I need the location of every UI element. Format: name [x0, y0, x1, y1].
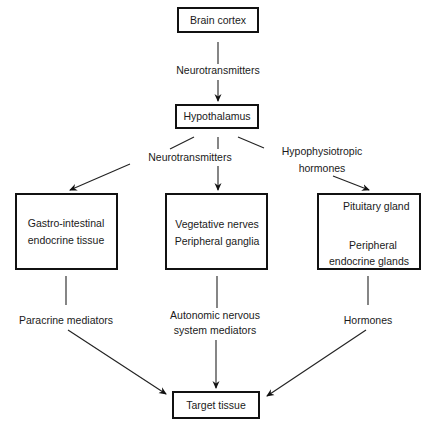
edge-label: system mediators — [174, 324, 256, 336]
edge-label: Autonomic nervous — [170, 309, 260, 321]
node-hypothalamus: Hypothalamus — [176, 105, 258, 128]
node-label: Hypothalamus — [183, 110, 250, 122]
edge-label: Hormones — [344, 314, 392, 326]
node-vegetative-nerves: Vegetative nerves Peripheral ganglia — [166, 194, 267, 269]
edge-label: hormones — [299, 162, 346, 174]
edge-vegetative-to-target: Autonomic nervous system mediators — [170, 276, 260, 388]
arrow — [333, 176, 369, 190]
arrow — [68, 330, 166, 394]
edge-hypothalamus-to-gi: Neurotransmitters — [70, 137, 232, 190]
node-label: Target tissue — [186, 399, 246, 411]
node-label: Pituitary gland — [343, 200, 410, 212]
edge-label: Hypophysiotropic — [282, 145, 363, 157]
edge-gi-to-target: Paracrine mediators — [19, 276, 166, 394]
arrow — [267, 330, 366, 396]
node-label: Vegetative nerves — [175, 218, 258, 230]
edge-line — [170, 137, 194, 149]
edge-cortex-to-hypothalamus: Neurotransmitters — [176, 42, 259, 101]
edge-pituitary-to-target: Hormones — [267, 276, 392, 396]
node-pituitary-gland: Pituitary gland Peripheral endocrine gla… — [318, 194, 420, 269]
arrow — [70, 164, 130, 190]
node-label: Brain cortex — [190, 14, 247, 26]
node-gi-endocrine-tissue: Gastro-intestinal endocrine tissue — [16, 194, 117, 269]
edge-line — [238, 137, 264, 148]
node-brain-cortex: Brain cortex — [178, 8, 258, 32]
neuroendocrine-diagram: Brain cortex Neurotransmitters Hypothala… — [0, 0, 434, 436]
edge-label: Neurotransmitters — [148, 151, 231, 163]
node-label: endocrine glands — [329, 255, 409, 267]
edge-hypothalamus-to-pituitary: Hypophysiotropic hormones — [238, 137, 369, 190]
node-label: Peripheral — [349, 239, 397, 251]
node-label: endocrine tissue — [28, 234, 105, 246]
edge-label: Paracrine mediators — [19, 314, 113, 326]
node-target-tissue: Target tissue — [173, 392, 259, 418]
node-label: Peripheral ganglia — [175, 235, 260, 247]
node-label: Gastro-intestinal — [28, 217, 104, 229]
edge-label: Neurotransmitters — [176, 64, 259, 76]
